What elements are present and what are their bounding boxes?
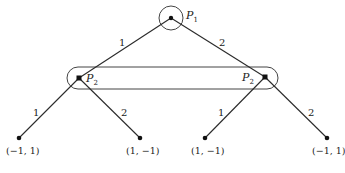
- leaf-node-3: [203, 136, 208, 141]
- branch-label-root-1: 1: [119, 37, 125, 48]
- root-player-label: P1: [185, 9, 198, 24]
- payoff-leaf-4: (−1, 1): [312, 145, 345, 156]
- branch-label-root-2: 2: [219, 37, 225, 48]
- leaf-node-2: [138, 136, 143, 141]
- game-tree-diagram: P1 P2 P2 1 2 1 2 1 2 (−1, 1) (1, −1) (1,…: [0, 0, 345, 173]
- payoff-leaf-2: (1, −1): [126, 145, 160, 156]
- edge-root-to-left: [79, 18, 171, 78]
- edge-left-to-leaf1: [19, 78, 79, 138]
- p2-right-node: [263, 75, 268, 80]
- leaf-node-4: [325, 136, 330, 141]
- branch-label-left-2: 2: [121, 107, 127, 118]
- edge-left-to-leaf2: [79, 78, 140, 138]
- edge-root-to-right: [171, 18, 265, 77]
- branch-label-left-1: 1: [33, 107, 39, 118]
- payoff-leaf-1: (−1, 1): [6, 145, 40, 156]
- edge-right-to-leaf3: [205, 77, 265, 138]
- payoff-leaf-3: (1, −1): [191, 145, 225, 156]
- p2-left-player-label: P2: [85, 72, 98, 87]
- root-node: [169, 16, 173, 20]
- p2-left-node: [77, 76, 82, 81]
- branch-label-right-2: 2: [308, 107, 314, 118]
- p2-right-player-label: P2: [241, 71, 254, 86]
- branch-label-right-1: 1: [218, 107, 224, 118]
- edge-right-to-leaf4: [265, 77, 327, 138]
- leaf-node-1: [17, 136, 22, 141]
